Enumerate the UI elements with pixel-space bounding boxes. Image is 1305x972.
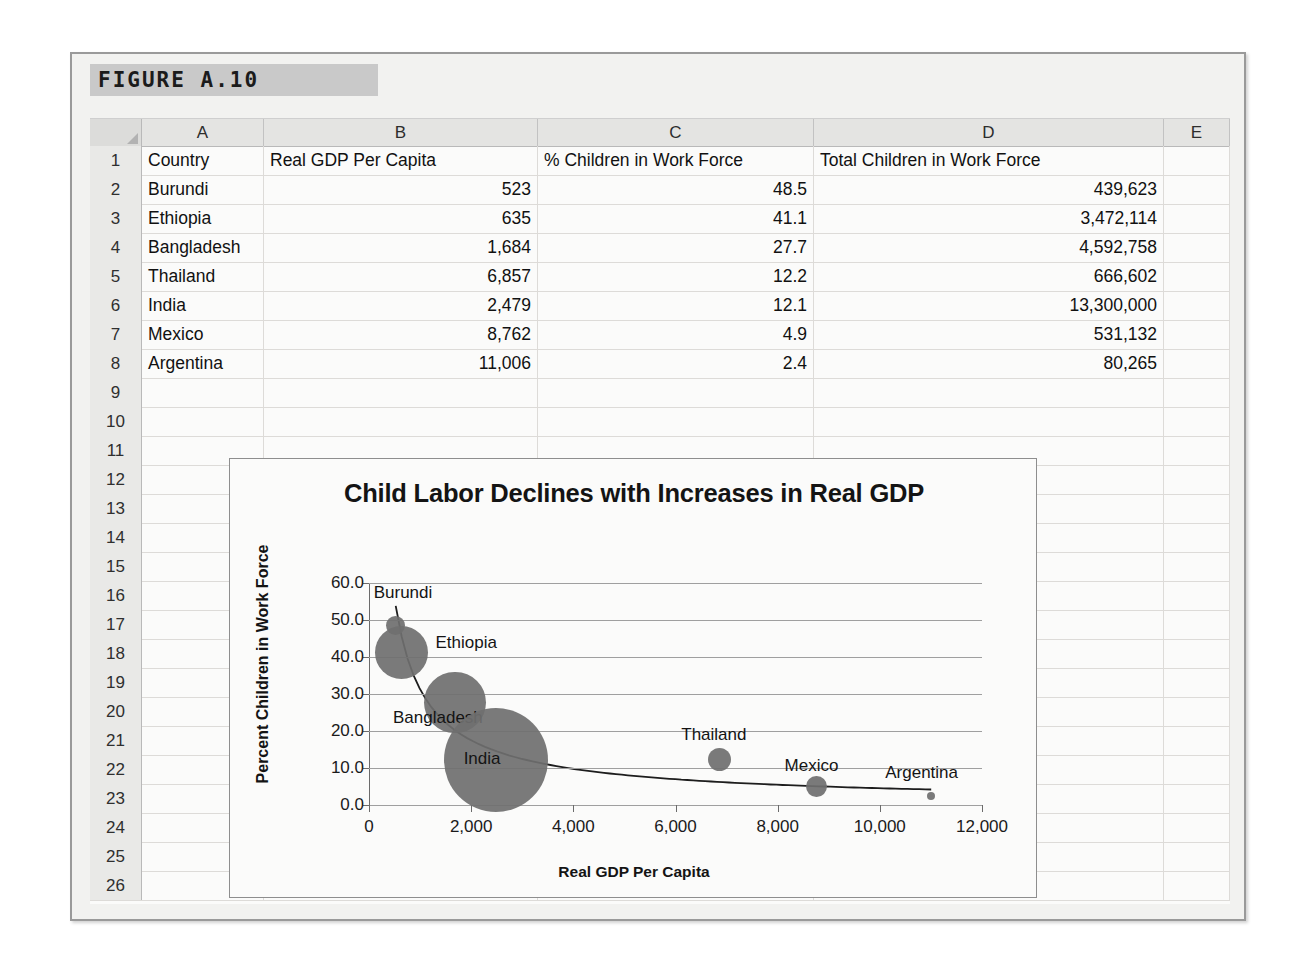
row-header-13[interactable]: 13 xyxy=(90,494,142,523)
cell-B9[interactable] xyxy=(264,378,538,407)
cell-D7[interactable]: 531,132 xyxy=(814,320,1164,349)
cell-E12[interactable] xyxy=(1164,465,1230,494)
cell-D2[interactable]: 439,623 xyxy=(814,175,1164,204)
cell-B8[interactable]: 11,006 xyxy=(264,349,538,378)
cell-C1[interactable]: % Children in Work Force xyxy=(538,146,814,175)
cell-E24[interactable] xyxy=(1164,813,1230,842)
row-header-14[interactable]: 14 xyxy=(90,523,142,552)
cell-A3[interactable]: Ethiopia xyxy=(142,204,264,233)
cell-E16[interactable] xyxy=(1164,581,1230,610)
cell-E4[interactable] xyxy=(1164,233,1230,262)
row-header-7[interactable]: 7 xyxy=(90,320,142,349)
row-header-2[interactable]: 2 xyxy=(90,175,142,204)
column-header-e[interactable]: E xyxy=(1164,119,1230,146)
row-header-21[interactable]: 21 xyxy=(90,726,142,755)
cell-E19[interactable] xyxy=(1164,668,1230,697)
cell-A2[interactable]: Burundi xyxy=(142,175,264,204)
cell-A6[interactable]: India xyxy=(142,291,264,320)
cell-B10[interactable] xyxy=(264,407,538,436)
row-header-17[interactable]: 17 xyxy=(90,610,142,639)
cell-B6[interactable]: 2,479 xyxy=(264,291,538,320)
row-header-19[interactable]: 19 xyxy=(90,668,142,697)
cell-D10[interactable] xyxy=(814,407,1164,436)
cell-D4[interactable]: 4,592,758 xyxy=(814,233,1164,262)
row-header-9[interactable]: 9 xyxy=(90,378,142,407)
cell-E22[interactable] xyxy=(1164,755,1230,784)
cell-E1[interactable] xyxy=(1164,146,1230,175)
cell-C4[interactable]: 27.7 xyxy=(538,233,814,262)
cell-B4[interactable]: 1,684 xyxy=(264,233,538,262)
table-row[interactable]: 9 xyxy=(90,378,1230,408)
cell-B5[interactable]: 6,857 xyxy=(264,262,538,291)
cell-C9[interactable] xyxy=(538,378,814,407)
row-header-25[interactable]: 25 xyxy=(90,842,142,871)
cell-D9[interactable] xyxy=(814,378,1164,407)
cell-A8[interactable]: Argentina xyxy=(142,349,264,378)
cell-C3[interactable]: 41.1 xyxy=(538,204,814,233)
row-header-3[interactable]: 3 xyxy=(90,204,142,233)
cell-A7[interactable]: Mexico xyxy=(142,320,264,349)
cell-A5[interactable]: Thailand xyxy=(142,262,264,291)
table-row[interactable]: 3Ethiopia63541.13,472,114 xyxy=(90,204,1230,234)
cell-E13[interactable] xyxy=(1164,494,1230,523)
table-row[interactable]: 7Mexico8,7624.9531,132 xyxy=(90,320,1230,350)
row-header-18[interactable]: 18 xyxy=(90,639,142,668)
cell-C7[interactable]: 4.9 xyxy=(538,320,814,349)
column-header-c[interactable]: C xyxy=(538,119,814,146)
cell-D3[interactable]: 3,472,114 xyxy=(814,204,1164,233)
table-row[interactable]: 1CountryReal GDP Per Capita% Children in… xyxy=(90,146,1230,176)
cell-C5[interactable]: 12.2 xyxy=(538,262,814,291)
cell-D6[interactable]: 13,300,000 xyxy=(814,291,1164,320)
row-header-23[interactable]: 23 xyxy=(90,784,142,813)
cell-E23[interactable] xyxy=(1164,784,1230,813)
cell-E3[interactable] xyxy=(1164,204,1230,233)
row-header-10[interactable]: 10 xyxy=(90,407,142,436)
cell-A1[interactable]: Country xyxy=(142,146,264,175)
cell-E20[interactable] xyxy=(1164,697,1230,726)
table-row[interactable]: 10 xyxy=(90,407,1230,437)
cell-B3[interactable]: 635 xyxy=(264,204,538,233)
table-row[interactable]: 4Bangladesh1,68427.74,592,758 xyxy=(90,233,1230,263)
row-header-15[interactable]: 15 xyxy=(90,552,142,581)
row-header-11[interactable]: 11 xyxy=(90,436,142,465)
cell-E2[interactable] xyxy=(1164,175,1230,204)
cell-C2[interactable]: 48.5 xyxy=(538,175,814,204)
cell-B2[interactable]: 523 xyxy=(264,175,538,204)
cell-E8[interactable] xyxy=(1164,349,1230,378)
table-row[interactable]: 8Argentina11,0062.480,265 xyxy=(90,349,1230,379)
cell-C10[interactable] xyxy=(538,407,814,436)
cell-E15[interactable] xyxy=(1164,552,1230,581)
column-header-d[interactable]: D xyxy=(814,119,1164,146)
cell-A9[interactable] xyxy=(142,378,264,407)
cell-E25[interactable] xyxy=(1164,842,1230,871)
cell-A10[interactable] xyxy=(142,407,264,436)
row-header-24[interactable]: 24 xyxy=(90,813,142,842)
cell-B7[interactable]: 8,762 xyxy=(264,320,538,349)
cell-C8[interactable]: 2.4 xyxy=(538,349,814,378)
row-header-12[interactable]: 12 xyxy=(90,465,142,494)
row-header-20[interactable]: 20 xyxy=(90,697,142,726)
cell-D1[interactable]: Total Children in Work Force xyxy=(814,146,1164,175)
row-header-6[interactable]: 6 xyxy=(90,291,142,320)
row-header-1[interactable]: 1 xyxy=(90,146,142,175)
cell-E26[interactable] xyxy=(1164,871,1230,900)
row-header-22[interactable]: 22 xyxy=(90,755,142,784)
select-all-corner[interactable] xyxy=(90,119,142,146)
cell-A4[interactable]: Bangladesh xyxy=(142,233,264,262)
cell-C6[interactable]: 12.1 xyxy=(538,291,814,320)
row-header-26[interactable]: 26 xyxy=(90,871,142,900)
spreadsheet-grid[interactable]: ABCDE 1CountryReal GDP Per Capita% Child… xyxy=(90,118,1230,904)
row-header-5[interactable]: 5 xyxy=(90,262,142,291)
column-header-a[interactable]: A xyxy=(142,119,264,146)
cell-E10[interactable] xyxy=(1164,407,1230,436)
row-header-4[interactable]: 4 xyxy=(90,233,142,262)
cell-E18[interactable] xyxy=(1164,639,1230,668)
cell-E17[interactable] xyxy=(1164,610,1230,639)
cell-E5[interactable] xyxy=(1164,262,1230,291)
table-row[interactable]: 6India2,47912.113,300,000 xyxy=(90,291,1230,321)
cell-E9[interactable] xyxy=(1164,378,1230,407)
cell-E7[interactable] xyxy=(1164,320,1230,349)
cell-B1[interactable]: Real GDP Per Capita xyxy=(264,146,538,175)
cell-E21[interactable] xyxy=(1164,726,1230,755)
chart-object[interactable]: Child Labor Declines with Increases in R… xyxy=(229,458,1037,898)
